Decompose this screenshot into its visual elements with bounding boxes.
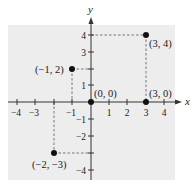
x-tick-label: 1 [107, 108, 112, 118]
coordinate-plane: −4 −3 −1 1 2 3 4 4 3 1 −1 −2 −4 x y (3, … [0, 0, 195, 187]
point-label: (−2, −3) [32, 159, 67, 171]
x-tick-label: −4 [11, 108, 21, 118]
y-tick-label: −4 [76, 166, 86, 176]
y-tick-label: −1 [76, 115, 86, 125]
point-neg2-neg3 [51, 150, 57, 156]
point-0-0 [88, 99, 94, 105]
x-tick-label: 4 [162, 108, 167, 118]
y-tick-label: 1 [81, 81, 86, 91]
point-label: (3, 4) [149, 38, 172, 50]
y-tick-label: 4 [81, 31, 86, 41]
y-axis-label: y [87, 3, 93, 15]
point-label: (3, 0) [149, 88, 172, 100]
x-tick-label: 3 [144, 108, 149, 118]
y-tick-label: 3 [81, 48, 86, 58]
point-label: (−1, 2) [35, 64, 64, 76]
y-axis-arrow-icon [89, 17, 94, 24]
y-tick-label: −2 [76, 132, 86, 142]
x-axis-label: x [184, 95, 190, 107]
x-tick-label: −3 [29, 108, 39, 118]
point-label: (0, 0) [94, 88, 117, 100]
point-3-0 [143, 99, 149, 105]
x-tick-label: −1 [66, 108, 76, 118]
x-axis-arrow-icon [175, 100, 182, 105]
x-tick-label: 2 [125, 108, 130, 118]
point-neg1-2 [69, 66, 75, 72]
